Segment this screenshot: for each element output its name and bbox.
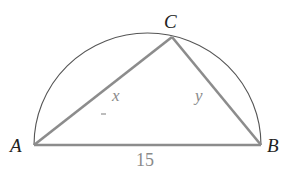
vertex-label-a: A xyxy=(8,135,22,156)
side-label-y: y xyxy=(193,86,203,105)
side-ac xyxy=(34,37,172,145)
semicircle-triangle-diagram: A B C x y 15 xyxy=(0,0,293,181)
side-bc xyxy=(172,37,261,145)
vertex-label-b: B xyxy=(267,135,279,156)
side-label-x: x xyxy=(111,86,120,105)
semicircle-arc xyxy=(34,33,261,145)
vertex-label-c: C xyxy=(164,11,177,32)
side-label-15: 15 xyxy=(136,150,154,170)
